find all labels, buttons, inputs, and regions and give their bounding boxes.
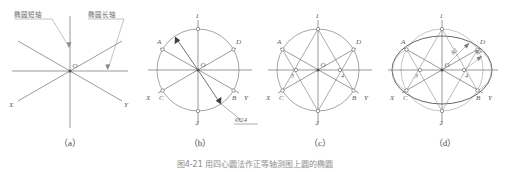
panel-a-origin-label: O — [73, 62, 78, 70]
panel-b-axis-x-label: X — [145, 94, 151, 102]
panel-caption-row: （a） （b） （c） （d） — [0, 136, 510, 156]
panel-b-arrow-line-upper — [176, 38, 198, 70]
panel-b-axis-y-label: Y — [244, 94, 249, 102]
panel-a-leader-left-arrow — [67, 42, 72, 48]
panel-b-label-2: 2 — [196, 119, 200, 127]
panel-c-point-C — [281, 89, 284, 92]
panel-a-oblique-upper-right — [70, 41, 122, 71]
panel-c-axis-y-label: Y — [364, 94, 369, 102]
panel-d-origin-label: O — [445, 61, 450, 69]
panel-c-label-4: 4 — [341, 73, 344, 79]
panel-c-point-A — [281, 48, 284, 51]
panel-b-origin-dot — [196, 68, 199, 71]
panel-c: 1 2 A D C B 3 4 O X Y — [260, 0, 380, 138]
figure-caption: 图4-21 用四心圆法作正等轴测图上圆的椭圆 — [0, 158, 510, 172]
panel-d-point-A — [405, 48, 408, 51]
panel-b-label-1: 1 — [196, 12, 200, 20]
panel-a: 椭圆短轴 椭圆长轴 O X Y — [0, 0, 140, 138]
panel-d-label-4: 4 — [465, 73, 468, 79]
panel-d-point-B — [476, 89, 479, 92]
caption-panel-c: （c） — [300, 136, 340, 149]
panel-c-label-1: 1 — [316, 12, 320, 20]
panel-c-label-B: B — [352, 94, 357, 102]
panel-a-leader-right-arrow — [105, 64, 110, 70]
panel-d-axis-x-label: X — [389, 94, 395, 102]
panel-a-axis-y — [70, 71, 122, 101]
caption-panel-d: （d） — [425, 136, 465, 149]
caption-panel-a: （a） — [50, 136, 90, 149]
panel-c-label-A: A — [276, 38, 282, 46]
panel-c-label-2: 2 — [316, 119, 320, 127]
panel-a-axis-y-label: Y — [124, 101, 129, 109]
panel-c-point-D — [352, 48, 355, 51]
panel-b-label-C: C — [159, 94, 164, 102]
panel-b-label-A: A — [156, 38, 162, 46]
panel-b-label-B: B — [232, 94, 237, 102]
panel-d-axis-y-label: Y — [488, 94, 493, 102]
panel-c-point-4 — [338, 68, 341, 71]
panel-c-point-1 — [316, 27, 319, 30]
panel-c-chord-2A — [283, 50, 319, 112]
panel-c-origin-dot — [316, 68, 319, 71]
panel-b-origin-label: O — [201, 61, 206, 69]
panel-d-label-1: 1 — [440, 12, 444, 20]
panel-d-origin-dot — [440, 68, 443, 71]
panel-b-point-D — [232, 48, 235, 51]
panel-d-point-2 — [440, 109, 443, 112]
panel-d-label-B: B — [476, 94, 481, 102]
panel-c-label-3: 3 — [290, 73, 294, 79]
panel-c-chord-1C — [283, 29, 319, 91]
panel-d-point-1 — [440, 27, 443, 30]
panel-a-major-axis-label: 椭圆长轴 — [88, 10, 116, 19]
panel-a-leader-right-line — [108, 19, 124, 69]
panel-d-label-C: C — [403, 94, 408, 102]
panel-b-label-D: D — [235, 38, 241, 46]
panel-b: 1 2 A D C B O X Y Ø24 — [140, 0, 260, 138]
panel-a-leader-left-line — [52, 19, 69, 47]
panel-b-point-1 — [196, 27, 199, 30]
panel-d-label-D: D — [479, 38, 485, 46]
panel-d-point-4 — [462, 68, 465, 71]
panel-d-point-C — [405, 89, 408, 92]
panel-c-chord-1B — [318, 29, 354, 91]
panel-a-axis-x-label: X — [8, 101, 14, 109]
panel-c-chord-2D — [318, 50, 354, 112]
panel-c-axis-x-label: X — [265, 94, 271, 102]
panel-c-label-C: C — [279, 94, 284, 102]
caption-panel-b: （b） — [180, 136, 220, 149]
figure-container: 椭圆短轴 椭圆长轴 O X Y — [0, 0, 510, 172]
panel-b-point-B — [232, 89, 235, 92]
panel-c-point-2 — [316, 109, 319, 112]
panel-d-label-3: 3 — [414, 73, 418, 79]
panel-a-oblique-upper-left — [18, 41, 70, 71]
panel-a-axis-x — [18, 71, 70, 101]
panel-c-point-B — [352, 89, 355, 92]
panel-c-origin-label: O — [321, 61, 326, 69]
panel-c-label-D: D — [355, 38, 361, 46]
panel-b-point-A — [161, 48, 164, 51]
panel-c-point-3 — [294, 68, 297, 71]
panel-a-origin-dot — [68, 69, 71, 72]
panel-b-arrow-line-lower — [198, 70, 220, 103]
panel-d-label-A: A — [400, 38, 406, 46]
panel-b-dimension-label: Ø24 — [234, 116, 248, 124]
panel-d: 1 2 A D C B 3 4 O X Y R1 R2 — [380, 0, 510, 138]
panel-b-point-C — [161, 89, 164, 92]
panel-d-label-2: 2 — [440, 119, 444, 127]
panel-d-point-3 — [418, 68, 421, 71]
panel-a-minor-axis-label: 椭圆短轴 — [14, 10, 42, 19]
panel-b-point-2 — [196, 109, 199, 112]
